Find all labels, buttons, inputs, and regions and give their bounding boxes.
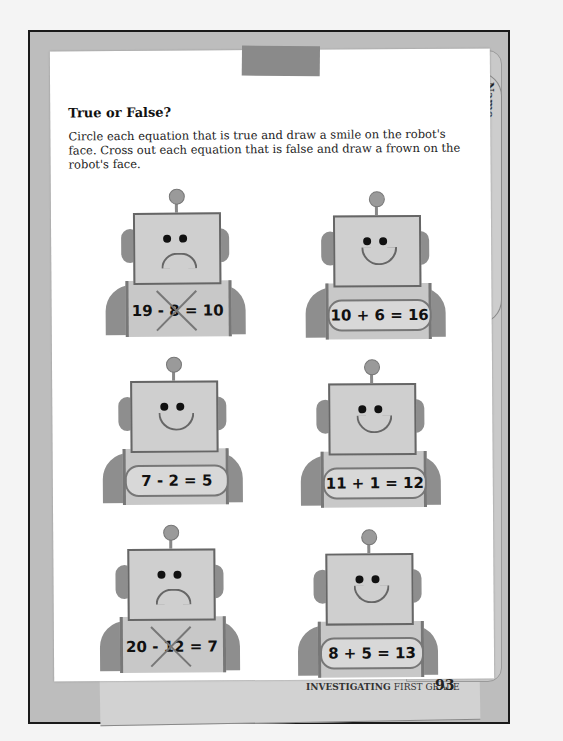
equation[interactable]: 7 - 2 = 5 <box>125 464 229 497</box>
tape-strip <box>242 46 320 77</box>
instructions: Circle each equation that is true and dr… <box>68 127 468 172</box>
equation[interactable]: 8 + 5 = 13 <box>320 637 424 670</box>
series-name: INVESTIGATING <box>306 682 391 692</box>
antenna-icon <box>361 529 377 545</box>
robot-face <box>127 548 216 621</box>
antenna-icon <box>169 189 185 205</box>
equation[interactable]: 11 + 1 = 12 <box>323 467 427 500</box>
smile-icon <box>354 585 390 603</box>
robot-5[interactable]: 20 - 12 = 7 <box>93 524 244 675</box>
robot-face <box>328 383 417 456</box>
equation[interactable]: 10 + 6 = 16 <box>328 299 432 332</box>
antenna-icon <box>364 359 380 375</box>
robot-face <box>333 215 422 288</box>
robot-face <box>133 212 222 285</box>
robot-4[interactable]: 11 + 1 = 12 <box>294 359 445 510</box>
robot-2[interactable]: 10 + 6 = 16 <box>299 191 450 342</box>
cross-out-icon <box>146 623 196 669</box>
robot-3[interactable]: 7 - 2 = 5 <box>96 356 247 507</box>
worksheet-title: True or False? <box>68 105 171 121</box>
smile-icon <box>158 413 194 431</box>
worksheet-page: True or False? Circle each equation that… <box>50 48 494 681</box>
robot-1[interactable]: 19 - 8 = 10 <box>99 188 250 339</box>
frown-icon <box>161 253 197 269</box>
antenna-icon <box>369 191 385 207</box>
smile-icon <box>361 247 397 265</box>
antenna-icon <box>166 357 182 373</box>
robot-face <box>325 553 414 626</box>
cross-out-icon <box>151 286 201 332</box>
frown-icon <box>156 589 192 605</box>
robot-face <box>130 380 219 453</box>
antenna-icon <box>163 525 179 541</box>
smile-icon <box>356 415 392 433</box>
workbook-frame: Name True or False? Circle each equation… <box>28 30 510 724</box>
robot-6[interactable]: 8 + 5 = 13 <box>291 529 442 680</box>
page-number: 93 <box>435 677 454 693</box>
